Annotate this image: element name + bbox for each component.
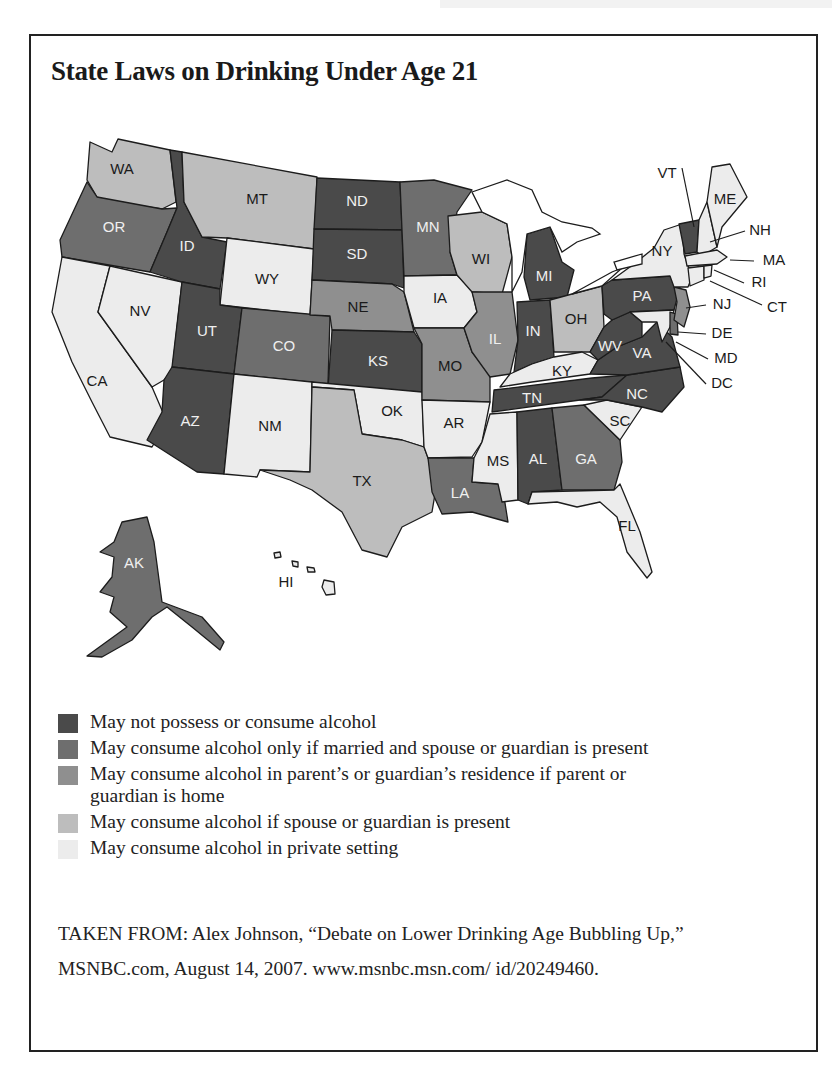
legend-label-1: May not possess or consume alcohol xyxy=(90,711,377,733)
state-label-WI: WI xyxy=(472,250,490,267)
state-label-NC: NC xyxy=(626,385,648,402)
legend-item-3: May consume alcohol in parent’s or guard… xyxy=(58,763,808,807)
state-label-MN: MN xyxy=(416,218,439,235)
state-label-CA: CA xyxy=(87,372,108,389)
state-label-ND: ND xyxy=(346,192,368,209)
state-label-OH: OH xyxy=(565,310,588,327)
legend-item-5: May consume alcohol in private setting xyxy=(58,837,808,859)
state-label-HI: HI xyxy=(279,573,294,590)
state-label-IN: IN xyxy=(526,322,541,339)
state-label-DE: DE xyxy=(712,324,733,341)
state-NJ xyxy=(674,287,690,327)
state-label-MI: MI xyxy=(536,267,553,284)
state-label-WA: WA xyxy=(110,160,134,177)
legend-label-2: May consume alcohol only if married and … xyxy=(90,737,648,759)
state-CT xyxy=(688,266,704,286)
leader-VT xyxy=(682,168,694,227)
state-label-CO: CO xyxy=(273,337,296,354)
state-label-FL: FL xyxy=(618,517,636,534)
legend-swatch-1 xyxy=(58,714,78,733)
legend-item-1: May not possess or consume alcohol xyxy=(58,711,808,733)
state-label-NH: NH xyxy=(749,221,771,238)
state-label-WY: WY xyxy=(255,270,279,287)
state-label-OR: OR xyxy=(103,218,126,235)
state-label-TN: TN xyxy=(522,389,542,406)
state-label-PA: PA xyxy=(633,287,652,304)
state-label-CT: CT xyxy=(767,298,787,315)
state-label-IL: IL xyxy=(489,330,502,347)
state-label-MO: MO xyxy=(438,357,462,374)
state-label-NE: NE xyxy=(348,298,369,315)
state-label-MA: MA xyxy=(763,251,786,268)
legend-label-5: May consume alcohol in private setting xyxy=(90,837,398,859)
leader-MA xyxy=(730,260,754,261)
state-label-NV: NV xyxy=(130,302,151,319)
state-label-MT: MT xyxy=(246,190,268,207)
legend-swatch-3 xyxy=(58,766,78,785)
state-label-TX: TX xyxy=(352,472,371,489)
legend-item-2: May consume alcohol only if married and … xyxy=(58,737,808,759)
state-label-ME: ME xyxy=(714,190,737,207)
legend-swatch-4 xyxy=(58,814,78,833)
us-map: WAORIDMTWYNVCAUTCOAZNMNDSDNEKSOKTXMNIAMO… xyxy=(31,36,820,696)
state-label-GA: GA xyxy=(575,450,597,467)
leader-DE xyxy=(678,332,706,334)
state-label-VA: VA xyxy=(633,344,652,361)
legend-item-4: May consume alcohol if spouse or guardia… xyxy=(58,811,808,833)
state-label-AL: AL xyxy=(529,450,547,467)
legend: May not possess or consume alcohol May c… xyxy=(58,711,808,863)
leader-RI xyxy=(714,270,744,283)
legend-label-4: May consume alcohol if spouse or guardia… xyxy=(90,811,510,833)
state-AK xyxy=(87,517,224,657)
state-label-DC: DC xyxy=(711,374,733,391)
state-label-LA: LA xyxy=(451,484,469,501)
state-RI xyxy=(704,265,712,278)
figure-frame: State Laws on Drinking Under Age 21 xyxy=(29,34,818,1052)
state-label-MS: MS xyxy=(487,452,510,469)
state-label-MD: MD xyxy=(714,349,737,366)
state-label-RI: RI xyxy=(752,273,767,290)
state-label-NY: NY xyxy=(652,242,673,259)
legend-swatch-2 xyxy=(58,740,78,759)
state-label-WV: WV xyxy=(598,337,622,354)
source-citation: TAKEN FROM: Alex Johnson, “Debate on Low… xyxy=(58,916,798,986)
state-label-SC: SC xyxy=(610,412,631,429)
state-label-NJ: NJ xyxy=(713,295,731,312)
legend-label-3: May consume alcohol in parent’s or guard… xyxy=(90,763,690,807)
state-label-VT: VT xyxy=(657,164,676,181)
state-label-OK: OK xyxy=(381,402,403,419)
state-label-AR: AR xyxy=(444,414,465,431)
state-label-NM: NM xyxy=(258,417,281,434)
state-label-KY: KY xyxy=(552,362,572,379)
state-label-IA: IA xyxy=(433,289,447,306)
state-label-AK: AK xyxy=(124,554,144,571)
state-label-UT: UT xyxy=(197,322,217,339)
state-label-KS: KS xyxy=(368,352,388,369)
state-label-ID: ID xyxy=(180,237,195,254)
state-label-SD: SD xyxy=(347,245,368,262)
legend-swatch-5 xyxy=(58,840,78,859)
page-edge xyxy=(440,0,832,8)
leader-MD xyxy=(676,342,708,359)
state-label-AZ: AZ xyxy=(180,412,199,429)
